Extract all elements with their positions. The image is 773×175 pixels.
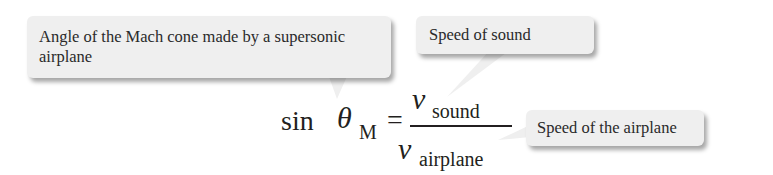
numerator-velocity: v: [412, 82, 425, 116]
denominator-subscript: airplane: [419, 148, 483, 171]
callout-airplane-speed: Speed of the airplane: [526, 110, 704, 146]
callout-airplane-speed-text: Speed of the airplane: [537, 118, 677, 137]
callout-mach-angle-text: Angle of the Mach cone made by a superso…: [39, 27, 345, 66]
theta-symbol: θ: [337, 101, 352, 135]
callout-sound-speed-text: Speed of sound: [429, 25, 531, 44]
numerator-subscript: sound: [432, 100, 480, 123]
callout-sound-speed: Speed of sound: [416, 16, 594, 54]
theta-subscript: M: [359, 121, 377, 144]
pointer-sound-speed: [447, 50, 510, 97]
fraction-bar: [410, 125, 512, 127]
callout-mach-angle: Angle of the Mach cone made by a superso…: [27, 16, 391, 78]
sine-function: sin: [281, 105, 314, 137]
denominator-velocity: v: [398, 132, 411, 166]
